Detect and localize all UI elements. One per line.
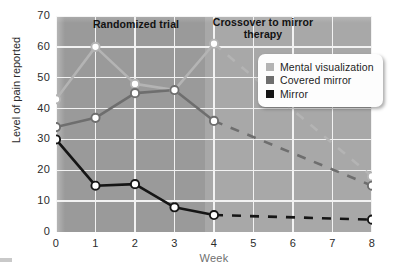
data-point-marker [56,95,60,103]
legend-item-mirror: Mirror [266,88,374,100]
data-point-marker [91,182,99,190]
x-axis-tick-label: 0 [46,237,66,249]
data-point-marker [131,80,139,88]
data-point-marker [91,43,99,51]
data-point-marker [131,180,139,188]
data-point-marker-endpoint [368,182,372,190]
data-point-marker-endpoint [368,216,372,224]
x-axis-tick-label: 8 [362,237,382,249]
x-axis-title: Week [56,252,372,264]
legend-label: Covered mirror [280,74,351,86]
annotation-crossover-line1: Crossover to mirror [213,16,314,28]
data-point-marker [210,40,218,48]
series-line-dashed [214,121,372,186]
y-axis-tick-label: 10 [16,194,50,206]
series-line-solid [56,139,214,215]
legend-swatch-icon [266,90,274,98]
legend-item-covered-mirror: Covered mirror [266,74,374,86]
data-point-marker [210,211,218,219]
y-axis-tick-label: 0 [16,225,50,237]
x-axis-tick-label: 3 [165,237,185,249]
legend-item-mental-visualization: Mental visualization [266,61,374,73]
annotation-crossover-line2: therapy [244,28,283,40]
legend-swatch-icon [266,76,274,84]
y-axis-title: Level of pain reported [10,10,22,170]
x-axis-tick-label: 7 [323,237,343,249]
data-point-marker [170,86,178,94]
data-point-marker [210,117,218,125]
legend-swatch-icon [266,63,274,71]
legend: Mental visualization Covered mirror Mirr… [258,54,383,107]
x-axis-tick-label: 2 [125,237,145,249]
series-line-dashed [214,215,372,220]
chart-figure: 010203040506070 012345678 Level of pain … [0,0,404,274]
annotation-randomized-trial: Randomized trial [66,18,206,30]
legend-label: Mirror [280,88,308,100]
data-point-marker [56,123,60,131]
x-axis-tick-label: 1 [86,237,106,249]
data-point-marker [131,89,139,97]
data-point-marker [170,203,178,211]
data-point-marker [56,135,60,143]
annotation-crossover-to-mirror-therapy: Crossover to mirror therapy [200,16,326,40]
x-axis-tick-label: 6 [283,237,303,249]
x-axis-tick-label: 4 [204,237,224,249]
page-corner-artifact [0,258,12,262]
plot-wrapper: 010203040506070 012345678 Level of pain … [0,0,404,274]
series-layer [56,16,372,232]
x-axis-tick-label: 5 [244,237,264,249]
data-point-marker [91,114,99,122]
data-point-marker-endpoint [368,172,372,180]
legend-label: Mental visualization [280,61,374,73]
